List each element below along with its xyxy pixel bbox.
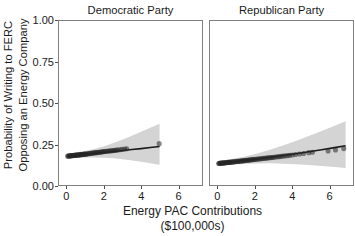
y-tick-label: 1.00 (24, 14, 54, 26)
x-axis-title-line2: ($100,000s) (30, 219, 355, 233)
x-tick-mark (66, 186, 67, 189)
x-axis-title-line1: Energy PAC Contributions (30, 204, 355, 218)
facet-title-democratic: Democratic Party (58, 2, 203, 18)
x-tick-label: 4 (131, 190, 151, 202)
x-tick-label: 2 (94, 190, 114, 202)
y-tick-label: 0.00 (24, 180, 54, 192)
x-tick-label: 0 (207, 190, 227, 202)
x-tick-mark (217, 186, 218, 189)
y-axis-ticks: 0.000.250.500.751.00 (24, 0, 54, 236)
data-point (301, 151, 306, 156)
x-tick-mark (292, 186, 293, 189)
x-tick-mark (330, 186, 331, 189)
chart-figure: Probability of Writing to FERC Opposing … (0, 0, 355, 236)
y-tick-mark (55, 20, 58, 21)
y-tick-mark (55, 186, 58, 187)
data-point (124, 146, 129, 151)
x-tick-label: 0 (56, 190, 76, 202)
panel-democratic (58, 20, 203, 186)
x-tick-mark (255, 186, 256, 189)
y-tick-mark (55, 62, 58, 63)
y-axis-title-line1: Probability of Writing to FERC (1, 19, 16, 172)
y-tick-mark (55, 145, 58, 146)
data-point (310, 150, 315, 155)
data-point (333, 147, 338, 152)
data-point (326, 148, 331, 153)
y-tick-label: 0.75 (24, 56, 54, 68)
x-tick-label: 6 (169, 190, 189, 202)
x-tick-mark (104, 186, 105, 189)
y-tick-mark (55, 103, 58, 104)
x-tick-mark (179, 186, 180, 189)
x-tick-mark (141, 186, 142, 189)
x-tick-label: 2 (245, 190, 265, 202)
data-point (341, 146, 346, 151)
y-tick-label: 0.50 (24, 97, 54, 109)
panel-republican (209, 20, 354, 186)
x-tick-label: 6 (320, 190, 340, 202)
y-tick-label: 0.25 (24, 139, 54, 151)
x-tick-label: 4 (282, 190, 302, 202)
confidence-band (67, 124, 159, 165)
facet-title-republican: Republican Party (209, 2, 354, 18)
plot-area-democratic (59, 21, 202, 185)
plot-area-republican (210, 21, 353, 185)
data-point (157, 141, 162, 146)
